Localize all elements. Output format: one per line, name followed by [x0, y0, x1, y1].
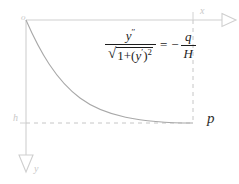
minus-sign: − [171, 37, 180, 53]
point-p-label: p [207, 111, 215, 126]
y-axis-arrowhead [19, 155, 33, 172]
lhs-fraction: y′′ √ 1+(y′)2 [105, 28, 156, 63]
rhs-denominator: H [181, 46, 196, 61]
radical-sign: √ [108, 46, 116, 63]
radicand: 1+(y′)2 [116, 47, 153, 63]
lhs-numerator: y′′ [123, 28, 139, 44]
x-axis-label: x [200, 6, 204, 16]
radicand-exponent: 2 [147, 47, 151, 57]
lhs-denominator: √ 1+(y′)2 [105, 45, 156, 63]
lhs-numerator-primes: ′′ [131, 27, 135, 37]
radicand-plus: + [124, 48, 131, 63]
equals-sign: = [156, 37, 171, 53]
y-axis-label: y [34, 164, 38, 174]
rhs-fraction: q H [181, 30, 196, 60]
rhs-numerator: q [182, 30, 195, 45]
catenary-diagram: o x y h p y′′ √ 1+(y′)2 = − q [0, 0, 239, 184]
x-axis-arrowhead [222, 14, 236, 27]
square-root: √ 1+(y′)2 [108, 46, 153, 63]
origin-label: o [21, 13, 26, 22]
sag-depth-label: h [13, 113, 18, 123]
differential-equation: y′′ √ 1+(y′)2 = − q H [105, 28, 196, 63]
